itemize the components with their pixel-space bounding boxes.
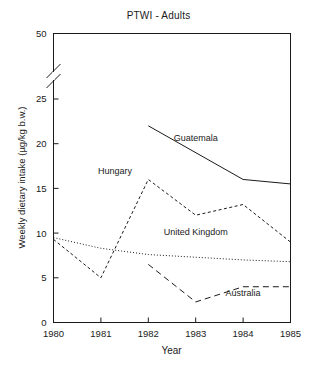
series-layer bbox=[54, 126, 291, 302]
y-tick-label: 5 bbox=[41, 272, 46, 283]
x-tick-label: 1981 bbox=[90, 328, 111, 339]
series-line-guatemala bbox=[148, 126, 290, 184]
series-label-hungary: Hungary bbox=[98, 166, 133, 176]
x-axis-label: Year bbox=[53, 345, 290, 356]
series-labels-layer: GuatemalaHungaryUnited KingdomAustralia bbox=[98, 133, 261, 298]
axes-layer: 051015202550198019811982198319841985 bbox=[36, 28, 301, 339]
plot-area: 051015202550198019811982198319841985 Gua… bbox=[0, 0, 317, 370]
y-tick-label: 10 bbox=[36, 228, 47, 239]
series-line-australia bbox=[148, 264, 290, 302]
y-tick-label: 25 bbox=[36, 93, 47, 104]
x-tick-label: 1980 bbox=[43, 328, 64, 339]
y-tick-label: 50 bbox=[36, 28, 47, 39]
x-tick-label: 1983 bbox=[185, 328, 206, 339]
y-tick-label: 15 bbox=[36, 183, 47, 194]
x-tick-label: 1985 bbox=[280, 328, 301, 339]
x-tick-label: 1982 bbox=[138, 328, 159, 339]
y-tick-label: 0 bbox=[41, 317, 46, 328]
series-label-united-kingdom: United Kingdom bbox=[164, 227, 228, 237]
y-tick-label: 20 bbox=[36, 138, 47, 149]
chart-figure: PTWI - Adults Weekly dietary intake (µg/… bbox=[0, 0, 317, 370]
x-tick-label: 1984 bbox=[233, 328, 254, 339]
series-label-australia: Australia bbox=[226, 288, 261, 298]
series-label-guatemala: Guatemala bbox=[174, 133, 218, 143]
series-line-united-kingdom bbox=[54, 238, 291, 262]
plot-frame bbox=[54, 34, 291, 323]
